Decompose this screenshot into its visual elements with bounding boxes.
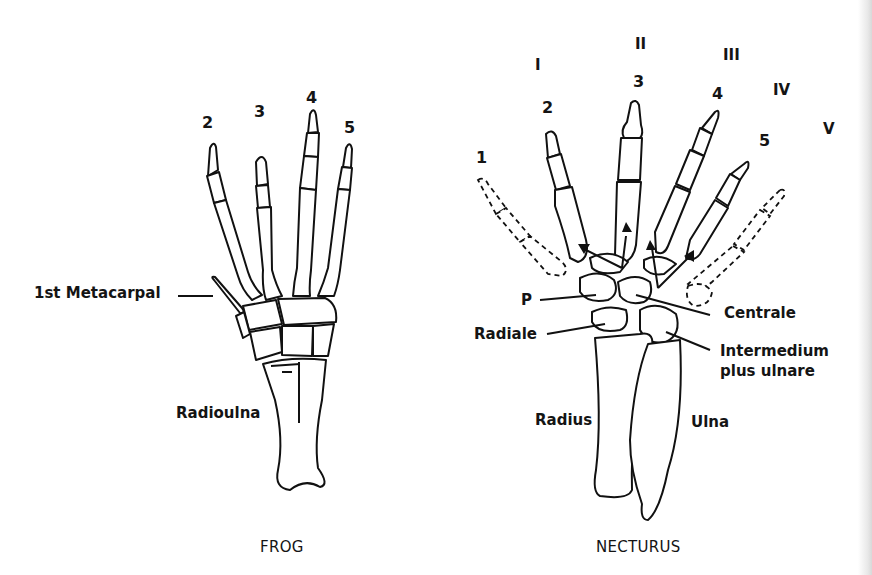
page-edge-shadow (858, 0, 872, 575)
callout-leader-lines (0, 0, 872, 575)
ulna-label: Ulna (691, 415, 729, 430)
intermedium-label-line2: plus ulnare (720, 364, 815, 379)
intermedium-label-line1: Intermedium (720, 344, 829, 359)
radiale-label: Radiale (474, 327, 537, 342)
necturus-caption: NECTURUS (596, 540, 681, 555)
anatomy-figure: 2 3 4 5 1st Metacarpal Radioulna FROG I … (0, 0, 872, 575)
centrale-label: Centrale (724, 306, 796, 321)
radius-label: Radius (535, 413, 592, 428)
